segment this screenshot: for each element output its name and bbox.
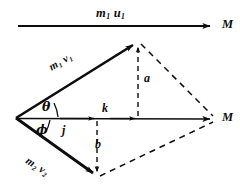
label-component-j: j — [62, 124, 66, 136]
vector-m1v1-arrow — [16, 45, 133, 118]
label-angle-theta: θ — [42, 101, 51, 114]
parallelogram-side-lower-dashed — [100, 122, 213, 176]
parallelogram-side-upper-dashed — [141, 44, 213, 116]
label-component-a: a — [144, 72, 150, 84]
angle-theta-arc — [54, 103, 58, 117]
vector-diagram-figure: m1 u1 M m1 v1 m2 v2 θ ϕ k j a b M — [0, 0, 240, 192]
label-mass-mid: M — [222, 111, 233, 124]
label-momentum-initial: m1 u1 — [96, 7, 125, 20]
label-angle-phi: ϕ — [36, 124, 48, 137]
label-component-k: k — [102, 102, 108, 114]
label-component-b: b — [95, 138, 101, 150]
label-mass-top: M — [222, 18, 233, 31]
